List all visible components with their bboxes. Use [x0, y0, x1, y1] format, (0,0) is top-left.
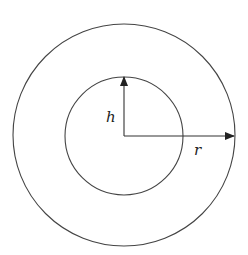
radius-label: r: [194, 141, 202, 159]
height-label: h: [106, 108, 116, 126]
diagram-canvas: h r: [0, 0, 248, 255]
